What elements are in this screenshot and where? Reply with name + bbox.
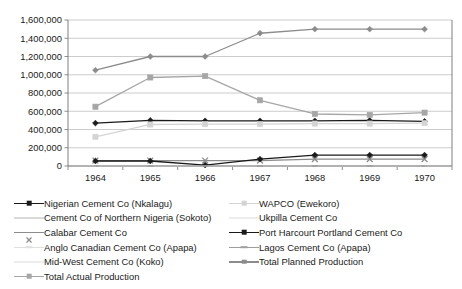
legend-item-label: Total Planned Production [259,256,363,267]
legend-key-swatch [229,255,259,269]
legend-item[interactable]: Nigerian Cement Co (Nkalagu) [14,196,236,211]
data-point-marker [422,121,427,126]
data-point-marker [203,121,208,126]
legend-marker-diamond-icon [27,201,32,206]
x-axis-tick-labels: 1964196519661967196819691970 [85,172,435,183]
x-axis-tick-label: 1964 [85,172,106,183]
legend-marker-diamond-icon [242,259,247,264]
y-axis-tick-label: 200,000 [28,142,62,153]
series-line [95,76,424,115]
x-axis-tick-label: 1968 [304,172,325,183]
chart-plot-area: 0200,000400,000600,000800,0001,000,0001,… [0,0,462,192]
data-point-marker [257,98,262,103]
data-point-marker [367,26,373,32]
data-point-marker [93,120,99,126]
legend-key-swatch [14,211,44,225]
data-point-marker [367,112,372,117]
x-axis-tick-label: 1970 [414,172,435,183]
legend-item-label: Total Actual Production [44,271,139,282]
line-chart: 0200,000400,000600,000800,0001,000,0001,… [0,0,462,192]
data-point-marker [203,74,208,79]
data-point-marker [93,134,98,139]
legend-item-label: Nigerian Cement Co (Nkalagu) [44,198,172,209]
data-point-marker [257,30,263,36]
legend-column-left: Nigerian Cement Co (Nkalagu)Cement Co of… [14,196,236,284]
data-series [93,26,428,73]
legend-key-swatch [14,240,44,254]
legend-item-label: Lagos Cement Co (Apapa) [259,242,371,253]
data-point-marker [422,26,428,32]
y-axis-tick-label: 1,000,000 [20,69,62,80]
data-point-marker [202,54,208,60]
legend-key-swatch [229,211,259,225]
legend-item[interactable]: Mid-West Cement Co (Koko) [14,254,236,269]
data-point-marker [367,121,372,126]
y-axis-tick-label: 1,200,000 [20,51,62,62]
legend-item[interactable]: Calabar Cement Co [14,225,236,240]
legend-marker-diamond-icon [242,230,247,235]
legend-key-swatch [14,196,44,210]
data-series [93,121,427,140]
legend-key-line [229,217,259,218]
legend-key-swatch [229,196,259,210]
data-point-marker [93,104,98,109]
x-axis-tick-label: 1969 [359,172,380,183]
legend-item[interactable]: Cement Co of Northern Nigeria (Sokoto) [14,211,236,226]
legend-item[interactable]: Ukpilla Cement Co [229,211,462,226]
data-point-marker [422,110,427,115]
legend-key-swatch [229,240,259,254]
legend-marker-dash-icon [26,246,33,248]
legend-item[interactable]: Total Actual Production [14,269,236,284]
legend-item[interactable]: Total Planned Production [229,254,462,269]
grid-lines [65,20,453,166]
legend-item-label: Calabar Cement Co [44,227,127,238]
legend-key-swatch [14,225,44,239]
data-point-marker [312,26,318,32]
y-axis-tick-label: 800,000 [28,87,62,98]
legend-marker-x-icon [26,229,32,235]
legend-marker-square-icon [242,201,247,206]
data-point-marker [148,75,153,80]
legend-key-swatch [229,225,259,239]
y-axis-tick-label: 1,400,000 [20,33,62,44]
data-series-group [92,26,427,168]
legend-item-label: Cement Co of Northern Nigeria (Sokoto) [44,212,211,223]
legend-key-line [14,261,44,262]
y-axis-tick-label: 600,000 [28,106,62,117]
data-point-marker [148,122,153,127]
data-point-marker [312,111,317,116]
legend-key-swatch [14,269,44,283]
legend-marker-square-icon [27,274,32,279]
legend-key-line [14,217,44,218]
legend-key-swatch [14,255,44,269]
y-axis-tick-label: 1,600,000 [20,14,62,25]
chart-figure: 0200,000400,000600,000800,0001,000,0001,… [0,0,462,289]
legend-item[interactable]: Anglo Canadian Cement Co (Apapa) [14,240,236,255]
legend-item-label: WAPCO (Ewekoro) [259,198,339,209]
legend-item-label: Mid-West Cement Co (Koko) [44,256,164,267]
data-point-marker [257,121,262,126]
legend-column-right: WAPCO (Ewekoro)Ukpilla Cement CoPort Har… [229,196,462,269]
y-axis-tick-labels: 0200,000400,000600,000800,0001,000,0001,… [20,14,62,171]
legend-item[interactable]: Lagos Cement Co (Apapa) [229,240,462,255]
data-point-marker [147,54,153,60]
legend-item-label: Port Harcourt Portland Cement Co [259,227,402,238]
data-point-marker [93,67,99,73]
legend-item[interactable]: WAPCO (Ewekoro) [229,196,462,211]
x-axis-tick-label: 1965 [140,172,161,183]
legend-item-label: Ukpilla Cement Co [259,212,337,223]
legend-marker-dash-icon [241,246,248,248]
chart-legend: Nigerian Cement Co (Nkalagu)Cement Co of… [0,196,462,289]
x-axis-tick-label: 1967 [250,172,271,183]
legend-item[interactable]: Port Harcourt Portland Cement Co [229,225,462,240]
y-axis-tick-label: 400,000 [28,124,62,135]
data-point-marker [312,121,317,126]
y-axis-tick-label: 0 [57,160,62,171]
data-point-marker [257,156,263,162]
x-axis-tick-label: 1966 [195,172,216,183]
legend-item-label: Anglo Canadian Cement Co (Apapa) [44,242,197,253]
